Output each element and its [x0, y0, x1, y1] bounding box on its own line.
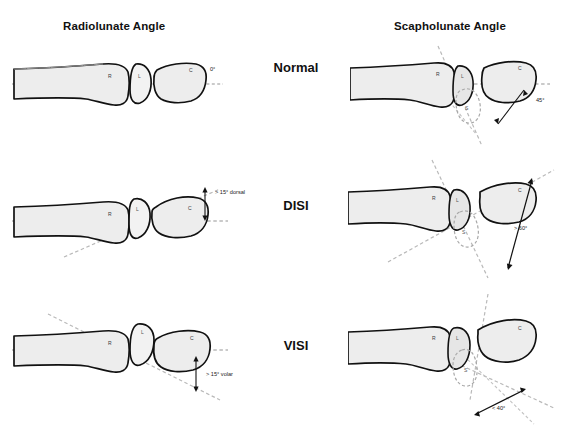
panel-radiolunate-visi: R L C — [8, 300, 258, 420]
bone-label-capitate: C — [189, 67, 193, 73]
radius-bone — [348, 327, 451, 371]
panel-scapholunate-normal: R L S C — [350, 38, 570, 148]
bone-label-lunate: L — [456, 335, 459, 341]
radius-bone — [350, 63, 455, 107]
radiolunate-normal-drawing: R L C — [8, 38, 258, 138]
bone-label-capitate: C — [518, 187, 522, 193]
column-title-scapholunate: Scapholunate Angle — [394, 20, 506, 32]
bone-label-scaphoid: S — [465, 105, 469, 111]
bone-label-capitate: C — [190, 335, 194, 341]
bone-label-radius: R — [432, 195, 436, 201]
panel-scapholunate-visi: R L S C — [348, 292, 572, 432]
bone-label-lunate: L — [136, 206, 139, 212]
annotation-radiolunate-visi: > 15° volar — [206, 371, 233, 377]
radius-axis-line — [460, 352, 534, 424]
bone-label-radius: R — [108, 73, 112, 79]
panel-scapholunate-disi: R L S C — [348, 150, 572, 285]
lunate-bone — [449, 190, 470, 230]
lunate-bone — [129, 199, 150, 239]
annotation-scapholunate-visi: < 40° — [492, 405, 505, 411]
capitate-bone — [482, 62, 536, 103]
angle-arrow-volar — [193, 356, 198, 392]
bone-label-radius: R — [436, 71, 440, 77]
panel-radiolunate-disi: R L C — [8, 165, 258, 275]
bone-label-capitate: C — [518, 65, 522, 71]
capitate-bone — [152, 197, 208, 238]
radius-bone — [14, 202, 129, 243]
bone-label-lunate: L — [461, 73, 464, 79]
annotation-scapholunate-disi: > 60° — [514, 225, 527, 231]
lunate-bone — [453, 66, 473, 105]
radiolunate-visi-drawing: R L C — [8, 300, 258, 420]
radiolunate-disi-drawing: R L C — [8, 165, 258, 275]
column-title-radiolunate: Radiolunate Angle — [63, 20, 165, 32]
bone-label-scaphoid: S — [462, 229, 466, 235]
bone-label-radius: R — [108, 340, 112, 346]
capitate-bone — [154, 63, 206, 102]
wrist-angle-figure: Radiolunate Angle Scapholunate Angle Nor… — [0, 0, 572, 438]
capitate-bone — [478, 320, 536, 362]
capitate-bone — [480, 183, 536, 224]
row-label-disi: DISI — [256, 198, 336, 213]
bone-label-lunate: L — [456, 197, 459, 203]
radius-bone — [348, 187, 451, 231]
scapholunate-visi-drawing: R L S C — [348, 292, 572, 432]
row-label-normal: Normal — [256, 60, 336, 75]
annotation-radiolunate-normal: 0° — [210, 66, 215, 72]
bone-label-lunate: L — [141, 329, 144, 335]
panel-radiolunate-normal: R L C — [8, 38, 258, 138]
bone-label-capitate: C — [518, 325, 522, 331]
annotation-radiolunate-disi: > 15° dorsal — [215, 189, 245, 195]
row-label-visi: VISI — [256, 338, 336, 353]
scapholunate-disi-drawing: R L S C — [348, 150, 572, 285]
bone-label-radius: R — [108, 211, 112, 217]
annotation-scapholunate-normal: 45° — [536, 97, 544, 103]
scapholunate-normal-drawing: R L S C — [350, 38, 570, 148]
radius-bone — [14, 64, 129, 105]
bone-label-radius: R — [432, 335, 436, 341]
capitate-bone — [154, 331, 210, 372]
lunate-bone — [448, 328, 470, 369]
radius-bone — [14, 331, 129, 372]
bone-label-capitate: C — [188, 205, 192, 211]
lunate-bone — [130, 64, 151, 104]
bone-label-lunate: L — [138, 73, 141, 79]
